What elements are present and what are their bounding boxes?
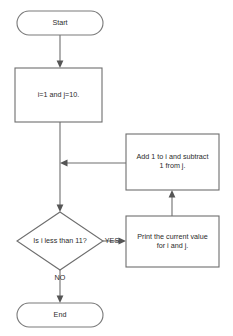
node-decision-label: Is i less than 11?	[17, 231, 103, 251]
node-init-label: i=1 and j=10.	[15, 68, 102, 122]
arrowhead-decision-top	[57, 205, 64, 213]
arrowhead-loop-return	[60, 160, 68, 167]
node-print-label: Print the current value for i and j.	[126, 216, 219, 267]
node-start-label: Start	[17, 11, 103, 35]
edge-label-no: NO	[48, 274, 72, 282]
node-end-label: End	[17, 303, 103, 327]
arrowhead-end-top	[57, 296, 64, 304]
flowchart-canvas: Start i=1 and j=10. Add 1 to i and subtr…	[0, 0, 233, 336]
node-increment-label: Add 1 to i and subtract 1 from j.	[126, 134, 219, 190]
edge-label-yes: YES	[103, 237, 121, 245]
arrowhead-init-top	[57, 61, 64, 69]
arrowhead-increment-bottom	[169, 190, 176, 198]
